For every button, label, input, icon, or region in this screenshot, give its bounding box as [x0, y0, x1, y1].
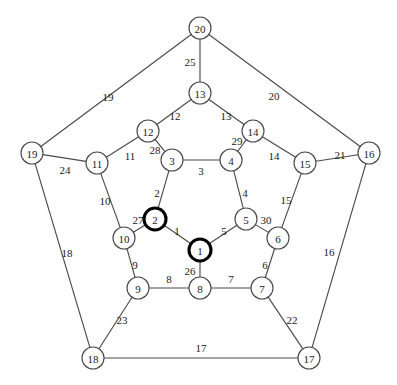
graph-node-5[interactable]: 5 — [235, 208, 257, 230]
graph-node-13[interactable]: 13 — [189, 82, 211, 104]
graph-edge — [43, 155, 86, 162]
graph-edge — [312, 164, 366, 348]
graph-canvas: 1234567891011121314151617181920212223242… — [0, 0, 397, 385]
node-label: 12 — [143, 126, 154, 138]
edge-label: 22 — [287, 314, 298, 326]
edge-label: 26 — [185, 265, 197, 277]
edge-label: 19 — [103, 91, 115, 103]
graph-node-9[interactable]: 9 — [127, 277, 149, 299]
node-label: 8 — [197, 283, 203, 295]
edge-label: 13 — [221, 110, 233, 122]
edge-label: 8 — [166, 273, 172, 285]
node-label: 3 — [169, 155, 175, 167]
graph-node-20[interactable]: 20 — [189, 17, 211, 39]
edge-label: 4 — [242, 187, 248, 199]
node-label: 20 — [195, 23, 207, 35]
node-label: 18 — [88, 353, 100, 365]
graph-node-10[interactable]: 10 — [113, 227, 135, 249]
edge-label: 14 — [269, 150, 281, 162]
edge-label: 18 — [62, 247, 74, 259]
graph-node-1[interactable]: 1 — [189, 239, 211, 261]
edge-label: 21 — [335, 149, 346, 161]
node-label: 2 — [152, 214, 158, 226]
node-label: 11 — [92, 158, 103, 170]
edge-label: 28 — [150, 144, 162, 156]
node-label: 14 — [248, 126, 260, 138]
edge-label: 16 — [324, 246, 336, 258]
graph-edge — [268, 297, 303, 349]
graph-node-18[interactable]: 18 — [82, 347, 104, 369]
edge-label: 2 — [154, 187, 160, 199]
graph-node-2[interactable]: 2 — [144, 208, 166, 230]
graph-node-11[interactable]: 11 — [86, 152, 108, 174]
graph-node-15[interactable]: 15 — [294, 152, 316, 174]
edge-label: 7 — [228, 273, 234, 285]
graph-node-17[interactable]: 17 — [298, 347, 320, 369]
edge-label: 25 — [185, 56, 197, 68]
node-label: 19 — [27, 148, 39, 160]
edge-label: 23 — [117, 314, 129, 326]
node-label: 15 — [300, 158, 312, 170]
graph-node-3[interactable]: 3 — [161, 149, 183, 171]
edge-label: 29 — [232, 135, 244, 147]
edge-label: 9 — [132, 259, 138, 271]
node-label: 7 — [259, 283, 265, 295]
edge-label: 17 — [196, 342, 208, 354]
graph-edge — [209, 35, 360, 147]
node-label: 4 — [228, 155, 234, 167]
node-label: 16 — [364, 148, 376, 160]
edge-label: 30 — [261, 214, 273, 226]
node-label: 17 — [304, 353, 316, 365]
edge-label: 10 — [100, 195, 112, 207]
edge-label: 3 — [198, 165, 204, 177]
graph-node-7[interactable]: 7 — [251, 277, 273, 299]
graph-node-16[interactable]: 16 — [358, 142, 380, 164]
node-label: 6 — [275, 233, 281, 245]
node-label: 5 — [243, 214, 249, 226]
edge-label: 24 — [60, 164, 72, 176]
edge-label: 27 — [133, 214, 145, 226]
graph-node-8[interactable]: 8 — [189, 277, 211, 299]
edge-label: 12 — [170, 110, 181, 122]
node-label: 1 — [197, 245, 203, 257]
graph-node-4[interactable]: 4 — [220, 149, 242, 171]
edge-label: 15 — [281, 194, 293, 206]
graph-node-6[interactable]: 6 — [267, 227, 289, 249]
edge-label: 11 — [125, 150, 136, 162]
edge-label: 5 — [221, 225, 227, 237]
edge-label: 1 — [174, 225, 180, 237]
node-label: 10 — [119, 233, 131, 245]
graph-node-14[interactable]: 14 — [242, 120, 264, 142]
edge-label: 6 — [262, 259, 268, 271]
graph-node-19[interactable]: 19 — [21, 142, 43, 164]
graph-diagram: 1234567891011121314151617181920212223242… — [0, 0, 397, 385]
node-label: 13 — [195, 88, 207, 100]
graph-node-12[interactable]: 12 — [137, 120, 159, 142]
edge-label: 20 — [269, 90, 281, 102]
node-label: 9 — [135, 283, 141, 295]
graph-edge — [41, 35, 191, 147]
